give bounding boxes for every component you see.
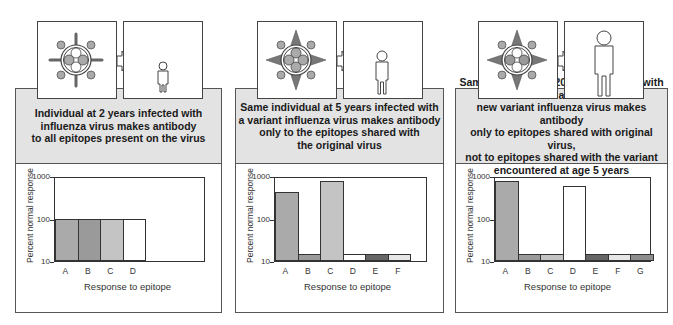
x-category-label: F	[388, 266, 408, 276]
panel-age-20: Same individual at 20 years infected wit…	[455, 88, 668, 313]
y-tick-label: 100	[30, 215, 50, 224]
chart-age-20: Percent normal response100010010ABCDEFGR…	[456, 163, 667, 313]
new-variant-virus-icon	[479, 22, 557, 98]
x-category-label: B	[298, 266, 318, 276]
x-category-label: D	[343, 266, 363, 276]
x-category-label: G	[630, 266, 650, 276]
virus-box	[37, 21, 117, 99]
bar-C	[100, 219, 124, 261]
panel-age-2: Individual at 2 years infected with infl…	[15, 88, 222, 313]
x-category-label: B	[518, 266, 538, 276]
x-axis-label: Response to epitope	[304, 281, 391, 292]
y-tick-mark	[50, 262, 54, 263]
x-category-label: F	[608, 266, 628, 276]
caption-box: Individual at 2 years infected with infl…	[16, 89, 221, 164]
bar-F	[388, 254, 412, 261]
bar-G	[630, 254, 654, 261]
x-axis-label: Response to epitope	[524, 281, 611, 292]
y-tick-label: 100	[250, 215, 270, 224]
y-tick-label: 10	[30, 257, 50, 266]
plot-area	[494, 177, 651, 262]
person-box	[564, 21, 644, 99]
bar-E	[365, 254, 389, 261]
plot-area	[274, 177, 427, 262]
x-category-label: D	[123, 266, 143, 276]
x-category-label: A	[495, 266, 515, 276]
y-tick-mark	[270, 262, 274, 263]
caption-box: Same individual at 20 years infected wit…	[456, 89, 667, 164]
panel-age-5: Same individual at 5 years infected with…	[235, 88, 444, 313]
y-tick-label: 10	[470, 257, 490, 266]
virus-box	[478, 21, 558, 99]
bar-C	[540, 254, 564, 261]
bar-A	[275, 192, 299, 261]
bar-D	[123, 219, 147, 261]
x-axis-label: Response to epitope	[84, 281, 171, 292]
bar-A	[495, 181, 519, 261]
adult-icon	[565, 22, 643, 98]
bar-E	[585, 254, 609, 261]
chart-age-5: Percent normal response100010010ABCDEFRe…	[236, 163, 443, 313]
y-tick-mark	[490, 262, 494, 263]
x-category-label: B	[78, 266, 98, 276]
virus-with-spikes-icon	[38, 22, 116, 98]
x-category-label: D	[563, 266, 583, 276]
bar-F	[608, 254, 632, 261]
variant-virus-icon	[258, 22, 336, 98]
bar-B	[78, 219, 102, 261]
y-tick-label: 1000	[30, 172, 50, 181]
child-icon	[344, 22, 422, 98]
x-category-label: A	[275, 266, 295, 276]
bar-B	[518, 254, 542, 261]
x-category-label: C	[540, 266, 560, 276]
plot-area	[54, 177, 205, 262]
y-tick-label: 10	[250, 257, 270, 266]
small-child-icon	[124, 22, 202, 98]
bar-B	[298, 254, 322, 261]
bar-D	[343, 254, 367, 261]
bar-C	[320, 181, 344, 261]
bar-A	[55, 219, 79, 261]
x-category-label: E	[365, 266, 385, 276]
x-category-label: A	[55, 266, 75, 276]
x-category-label: C	[320, 266, 340, 276]
person-box	[343, 21, 423, 99]
y-tick-label: 1000	[250, 172, 270, 181]
x-category-label: E	[585, 266, 605, 276]
x-category-label: C	[100, 266, 120, 276]
virus-box	[257, 21, 337, 99]
caption-text: Individual at 2 years infected with infl…	[32, 107, 206, 145]
y-tick-label: 100	[470, 215, 490, 224]
caption-text: Same individual at 5 years infected with…	[239, 101, 441, 151]
bar-D	[563, 186, 587, 261]
person-box	[123, 21, 203, 99]
chart-age-2: Percent normal response100010010ABCDResp…	[16, 163, 221, 313]
y-tick-label: 1000	[470, 172, 490, 181]
caption-box: Same individual at 5 years infected with…	[236, 89, 443, 164]
